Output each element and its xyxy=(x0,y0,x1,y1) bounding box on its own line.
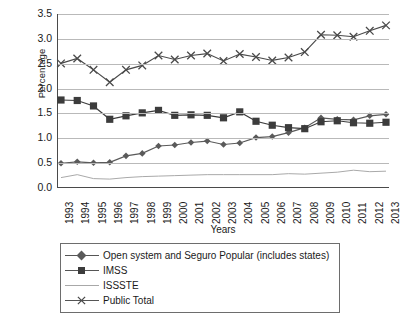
data-point xyxy=(220,141,227,148)
legend-item-imss[interactable]: IMSS xyxy=(65,263,333,278)
legend-label: Open system and Seguro Popular (includes… xyxy=(99,250,329,261)
x-tick-label: 2008 xyxy=(309,202,320,224)
data-point xyxy=(317,118,324,125)
data-point xyxy=(236,140,243,147)
x-tick-label: 2005 xyxy=(260,202,271,224)
data-point xyxy=(187,111,194,118)
x-marker-icon xyxy=(65,294,99,307)
gridline xyxy=(58,64,389,65)
data-point xyxy=(155,52,163,60)
gridline xyxy=(58,163,389,164)
gridline xyxy=(58,39,389,40)
legend-item-issste[interactable]: ISSSTE xyxy=(65,278,333,293)
x-tick-label: 1999 xyxy=(162,202,173,224)
x-tick-label: 2001 xyxy=(194,202,205,224)
line-marker-icon xyxy=(65,279,99,292)
data-point xyxy=(57,96,64,103)
data-point xyxy=(123,153,130,160)
x-tick-label: 1994 xyxy=(80,202,91,224)
data-point xyxy=(382,119,389,126)
data-point xyxy=(350,119,357,126)
gridline xyxy=(58,89,389,90)
x-tick-label: 1998 xyxy=(146,202,157,224)
series-x xyxy=(57,22,390,86)
y-tick-label: 1.5 xyxy=(2,107,52,117)
y-tick-label: 3.0 xyxy=(2,33,52,43)
data-point xyxy=(366,27,374,35)
legend-label: ISSSTE xyxy=(99,280,139,291)
legend-item-open-system[interactable]: Open system and Seguro Popular (includes… xyxy=(65,248,333,263)
chart-legend: Open system and Seguro Popular (includes… xyxy=(60,243,340,313)
legend-label: IMSS xyxy=(99,265,127,276)
data-point xyxy=(285,124,292,131)
diamond-marker-icon xyxy=(65,249,99,262)
x-tick-label: 2010 xyxy=(341,202,352,224)
x-tick-label: 2006 xyxy=(276,202,287,224)
y-tick-label: 0.5 xyxy=(2,157,52,167)
x-tick-label: 2007 xyxy=(292,202,303,224)
data-point xyxy=(90,66,98,74)
gridline xyxy=(58,113,389,114)
y-tick-label: 2.5 xyxy=(2,58,52,68)
data-point xyxy=(106,78,114,86)
legend-item-public-total[interactable]: Public Total xyxy=(65,293,333,308)
data-point xyxy=(73,55,81,63)
data-point xyxy=(90,102,97,109)
data-point xyxy=(171,142,178,149)
data-point xyxy=(301,125,308,132)
x-tick-label: 1995 xyxy=(97,202,108,224)
x-tick-label: 2012 xyxy=(374,202,385,224)
data-point xyxy=(269,122,276,129)
x-tick-label: 1996 xyxy=(113,202,124,224)
y-tick-label: 1.0 xyxy=(2,132,52,142)
x-tick-label: 2009 xyxy=(325,202,336,224)
series-none xyxy=(61,170,386,179)
legend-label: Public Total xyxy=(99,295,154,306)
x-tick-label: 1997 xyxy=(129,202,140,224)
gridline xyxy=(58,14,389,15)
x-tick-label: 2002 xyxy=(211,202,222,224)
data-point xyxy=(122,66,130,74)
x-axis-tick-labels: 1993199419951996199719981999200020012002… xyxy=(57,190,389,228)
x-tick-label: 2000 xyxy=(178,202,189,224)
data-point xyxy=(139,150,146,157)
data-point xyxy=(382,22,390,30)
data-point xyxy=(74,97,81,104)
gridline xyxy=(58,138,389,139)
data-point xyxy=(220,114,227,121)
y-tick-label: 0.0 xyxy=(2,182,52,192)
x-tick-label: 2004 xyxy=(243,202,254,224)
x-tick-label: 2011 xyxy=(357,202,368,224)
data-point xyxy=(334,117,341,124)
x-tick-label: 2003 xyxy=(227,202,238,224)
y-axis-tick-labels: 0.00.51.01.52.02.53.03.5 xyxy=(0,0,52,188)
y-tick-label: 2.0 xyxy=(2,83,52,93)
data-point xyxy=(171,56,179,64)
data-point xyxy=(106,116,113,123)
square-marker-icon xyxy=(65,264,99,277)
x-tick-label: 2013 xyxy=(390,202,401,224)
data-point xyxy=(155,143,162,150)
series-lines xyxy=(58,14,389,187)
data-point xyxy=(188,139,195,146)
x-tick-label: 1993 xyxy=(64,202,75,224)
plot-area xyxy=(57,14,389,188)
data-point xyxy=(252,118,259,125)
data-point xyxy=(301,48,309,56)
data-point xyxy=(366,120,373,127)
y-tick-label: 3.5 xyxy=(2,8,52,18)
x-axis-title: Years xyxy=(57,224,389,235)
